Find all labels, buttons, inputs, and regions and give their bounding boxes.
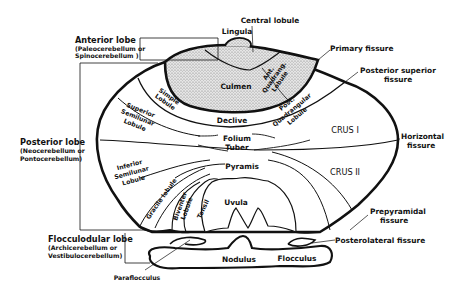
flocculonodular-lobe-alt2: Vestibulocerebellum) — [48, 252, 122, 259]
lingula-shape — [225, 38, 251, 47]
primary-fissure-label: Primary fissure — [330, 44, 394, 53]
flocculus-label: Flocculus — [278, 254, 317, 263]
primary-fissure-pointer — [318, 50, 330, 60]
posterolateral-fissure-label: Posterolateral fissure — [335, 236, 425, 245]
prepyramidal-fissure-label-1: Prepyramidal — [370, 207, 426, 216]
posterior-superior-fissure-label-1: Posterior superior — [360, 66, 436, 75]
diagram-canvas: Anterior lobe (Paleocerebellum or Spinoc… — [0, 0, 456, 295]
folium-label: Folium — [223, 134, 251, 143]
anterior-lobe-label: Anterior lobe — [75, 35, 136, 45]
posterior-superior-fissure-label-2: fissure — [384, 75, 412, 84]
crus-1-label: CRUS I — [331, 125, 359, 135]
declive-label: Declive — [217, 116, 247, 125]
anterior-lobe-alt1: (Paleocerebellum or — [75, 45, 146, 52]
central-lobule-label: Central lobule — [241, 16, 300, 25]
uvula-label: Uvula — [224, 198, 248, 207]
pyramis-label: Pyramis — [225, 162, 259, 171]
flocculonodular-lobe-alt1: (Archicerebellum or — [48, 244, 118, 251]
prepyramidal-pointer — [350, 215, 368, 230]
culmen-label: Culmen — [220, 82, 251, 91]
cerebellum-diagram: Anterior lobe (Paleocerebellum or Spinoc… — [0, 0, 456, 295]
tuber-label: Tuber — [225, 143, 249, 152]
crus-2-label: CRUS II — [330, 167, 360, 177]
prepyramidal-fissure-label-2: fissure — [380, 216, 408, 225]
horizontal-fissure-label-1: Horizontal — [401, 132, 444, 141]
posterior-superior-pointer — [345, 72, 358, 82]
nodulus-label: Nodulus — [222, 255, 257, 264]
flocculonodular-lobe-label: Flocculodular lobe — [48, 234, 133, 244]
anterior-lobe-alt2: Spinocerebellum ) — [75, 52, 139, 60]
posterior-lobe-alt1: (Neocerebellum or — [20, 147, 86, 154]
posterior-lobe-alt2: Pontocerebellum) — [20, 155, 82, 162]
lingula-label: Lingula — [222, 27, 253, 36]
paraflocculus-label: Paraflocculus — [114, 274, 161, 281]
posterior-lobe-label: Posterior lobe — [20, 137, 86, 147]
horizontal-fissure-label-2: fissure — [407, 141, 435, 150]
